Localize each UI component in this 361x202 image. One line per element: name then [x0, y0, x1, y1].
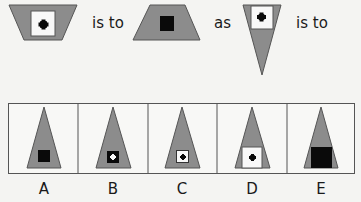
- option-label-d[interactable]: D: [242, 182, 262, 197]
- connector-text-3: is to: [296, 16, 328, 31]
- shape-2-trapezoid: [133, 5, 200, 40]
- shape-1-inverted-trapezoid: [9, 5, 77, 40]
- option-label-a[interactable]: A: [34, 182, 54, 197]
- shape-3-inverted-triangle: [243, 5, 281, 75]
- connector-text-2: as: [214, 16, 231, 31]
- option-label-e[interactable]: E: [311, 182, 331, 197]
- option-label-b[interactable]: B: [103, 182, 123, 197]
- connector-text-1: is to: [92, 16, 124, 31]
- option-label-c[interactable]: C: [172, 182, 192, 197]
